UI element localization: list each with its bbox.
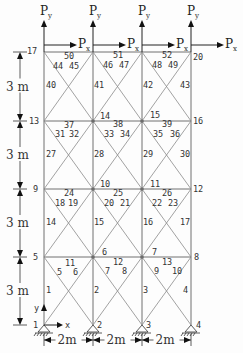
applied-loads: PyPxPyPxPyPxPyPx: [40, 4, 237, 53]
arrow-up-icon: [41, 20, 47, 27]
node-label: 8: [194, 252, 199, 262]
horizontal-load-label: Px: [225, 37, 237, 53]
arrow-up-icon: [90, 20, 96, 27]
arrow-left-icon: [93, 337, 100, 343]
arrow-down-icon: [17, 114, 23, 121]
arrow-right-icon: [168, 42, 175, 48]
member-label: 52: [162, 50, 172, 60]
member-label: 2: [94, 285, 99, 295]
member-label: 31: [55, 129, 65, 139]
horizontal-load-label: Px: [78, 37, 90, 53]
member-label: 35: [153, 129, 163, 139]
arrow-right-icon: [135, 337, 142, 343]
arrow-down-icon: [17, 182, 23, 189]
x-axis-arrow-icon: [57, 322, 63, 328]
member-label: 43: [180, 80, 190, 90]
member-label: 20: [104, 198, 114, 208]
arrow-up-icon: [17, 52, 23, 59]
ground-hatch: [95, 333, 97, 336]
node-label: 1: [33, 320, 38, 330]
storey-height-label: 3 m: [6, 216, 29, 230]
member-label: 41: [94, 80, 104, 90]
member-label: 16: [143, 217, 153, 227]
load-subscript: y: [145, 12, 150, 20]
member-label: 37: [64, 120, 74, 130]
node-label: 6: [102, 247, 107, 257]
node-label: 12: [193, 184, 203, 194]
node-label: 14: [100, 111, 110, 121]
x-axis-label: x: [65, 320, 70, 330]
load-subscript: x: [233, 45, 237, 53]
bay-width-label: 2m: [58, 333, 78, 347]
member-label: 28: [94, 149, 104, 159]
ground-hatch: [86, 333, 88, 336]
node-label: 10: [100, 179, 110, 189]
storey-height-label: 3 m: [6, 284, 29, 298]
member-label: 51: [113, 50, 123, 60]
y-axis-label: y: [34, 303, 39, 313]
node-label: 15: [150, 110, 160, 120]
storey-height-label: 3 m: [6, 80, 29, 94]
node-label: 5: [33, 252, 38, 262]
member-label: 5: [57, 267, 62, 277]
node-label: 17: [27, 46, 37, 56]
member-label: 26: [162, 188, 172, 198]
vertical-load-label: Py: [40, 4, 52, 20]
member-label: 33: [104, 129, 114, 139]
arrow-up-icon: [188, 20, 194, 27]
node-label: 16: [193, 116, 203, 126]
member-label: 29: [143, 149, 153, 159]
arrow-down-icon: [17, 318, 23, 325]
storey-height-label: 3 m: [6, 148, 29, 162]
node-label: 20: [193, 52, 203, 62]
ground-hatch: [187, 333, 189, 336]
member-label: 3: [143, 285, 148, 295]
member-label: 40: [46, 80, 56, 90]
coordinate-axes: xy: [34, 303, 70, 330]
ground-hatch: [181, 333, 183, 336]
member-label: 7: [105, 266, 110, 276]
member-label: 24: [64, 188, 74, 198]
member-label: 17: [180, 217, 190, 227]
arrow-right-icon: [184, 337, 191, 343]
member-label: 39: [162, 119, 172, 129]
member-label: 13: [162, 257, 172, 267]
member-label: 46: [103, 60, 113, 70]
horizontal-load-label: Px: [176, 37, 188, 53]
member-label: 1: [46, 285, 51, 295]
member-label: 23: [168, 198, 178, 208]
member-label: 47: [119, 60, 129, 70]
node-label: 9: [33, 184, 38, 194]
node-label: 11: [150, 179, 160, 189]
pin-support-icon: [38, 325, 50, 332]
ground-hatch: [132, 333, 134, 336]
arrow-up-icon: [17, 189, 23, 196]
vertical-load-label: Py: [187, 4, 199, 20]
ground-hatch: [193, 333, 195, 336]
node-label: 3: [146, 320, 151, 330]
member-label: 50: [64, 51, 74, 61]
member-label: 15: [94, 217, 104, 227]
member-label: 19: [68, 198, 78, 208]
arrow-right-icon: [86, 337, 93, 343]
member-label: 18: [55, 198, 65, 208]
dimension-lines: 3 m3 m3 m3 m2m2m2m: [4, 52, 191, 347]
member-label: 36: [170, 129, 180, 139]
member-label: 32: [69, 129, 79, 139]
load-subscript: y: [96, 12, 101, 20]
arrow-down-icon: [17, 250, 23, 257]
ground-hatch: [34, 333, 36, 336]
node-label: 7: [152, 247, 157, 257]
ground-hatch: [135, 333, 137, 336]
member-label: 12: [113, 257, 123, 267]
arrow-up-icon: [17, 121, 23, 128]
member-label: 27: [46, 149, 56, 159]
member-label: 10: [172, 266, 182, 276]
vertical-load-label: Py: [89, 4, 101, 20]
load-subscript: y: [194, 12, 199, 20]
member-label: 6: [73, 267, 78, 277]
frame-diagram: PyPxPyPxPyPxPyPx 3 m3 m3 m3 m2m2m2m xy 1…: [0, 0, 243, 353]
member-label: 14: [46, 217, 56, 227]
load-subscript: y: [47, 12, 52, 20]
member-label: 11: [65, 258, 75, 268]
